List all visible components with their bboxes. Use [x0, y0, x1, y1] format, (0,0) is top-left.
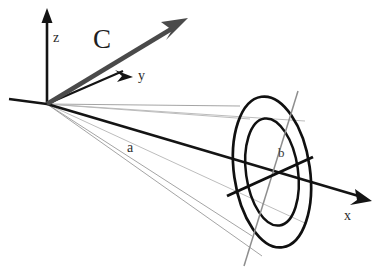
axis-x: x	[9, 99, 372, 223]
diagram-canvas: z x y C a	[0, 0, 379, 271]
measure-b-label: b	[278, 145, 285, 160]
chord-b-thick	[227, 157, 313, 196]
annular-disk	[224, 91, 320, 252]
axis-x-label: x	[344, 208, 351, 223]
disk-outer-ellipse	[224, 91, 320, 252]
axis-x-negative-stub	[9, 99, 47, 104]
cone-rays-group	[47, 104, 307, 256]
axis-x-shaft	[47, 104, 362, 197]
cone-ray-lower-outer-far	[47, 104, 307, 224]
vector-diagram-svg: z x y C a	[0, 0, 379, 271]
axis-z: z	[42, 8, 60, 104]
cone-ray-lower-outer	[47, 104, 262, 256]
axis-y-arrowhead-icon	[115, 70, 133, 82]
axis-z-arrowhead-icon	[42, 8, 53, 23]
vector-c-label: C	[93, 24, 111, 54]
vector-c-arrowhead-icon	[161, 18, 188, 40]
axis-x-arrowhead-icon	[350, 189, 372, 205]
measure-a-label: a	[127, 140, 134, 155]
axis-y-label: y	[138, 68, 145, 83]
axis-z-label: z	[53, 30, 59, 45]
vector-c: C	[47, 18, 188, 104]
cone-ray-upper-inner	[47, 104, 250, 119]
cone-ray-lower-inner	[47, 104, 252, 236]
disk-inner-ellipse	[239, 115, 306, 229]
